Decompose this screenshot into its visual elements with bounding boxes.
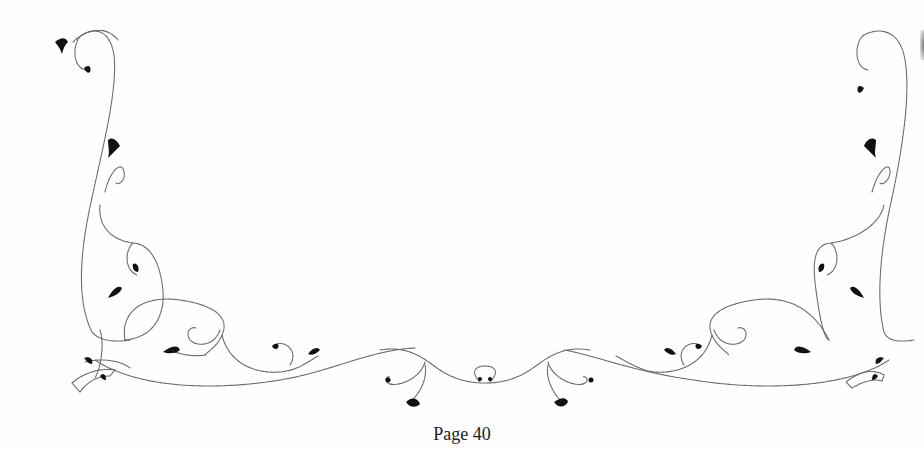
right-vine-ornament bbox=[564, 31, 914, 388]
center-ornament bbox=[380, 349, 594, 407]
floral-border-ornament bbox=[0, 0, 924, 454]
page-number: Page 40 bbox=[0, 424, 924, 445]
document-page: Page 40 bbox=[0, 0, 924, 454]
page-edge-shadow bbox=[920, 30, 924, 60]
left-vine-ornament bbox=[55, 30, 415, 392]
leaf-icon bbox=[55, 38, 68, 54]
